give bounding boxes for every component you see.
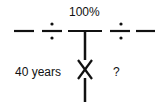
division-dot-left-bottom (50, 36, 53, 39)
right-label: ? (113, 65, 120, 79)
division-dot-right-top (119, 22, 122, 25)
x-cross-icon (78, 60, 92, 79)
top-label: 100% (69, 5, 100, 19)
division-dot-left-top (50, 22, 53, 25)
left-label: 40 years (15, 65, 61, 79)
division-dot-right-bottom (119, 36, 122, 39)
